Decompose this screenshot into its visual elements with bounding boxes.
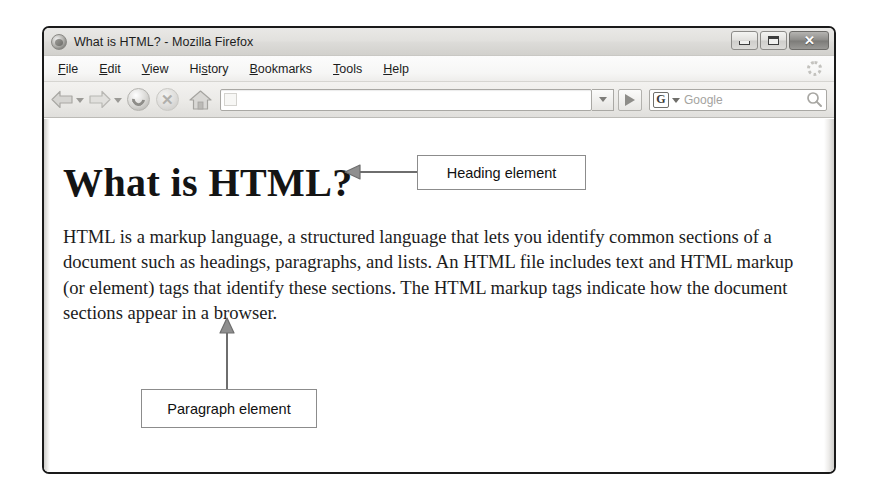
google-search-engine-icon[interactable]: G — [653, 92, 669, 108]
menu-item-file[interactable]: File — [58, 62, 78, 76]
menu-item-bookmarks[interactable]: Bookmarks — [250, 62, 313, 76]
menu-item-view[interactable]: View — [142, 62, 169, 76]
heading-callout-box: Heading element — [417, 155, 586, 190]
stop-button[interactable]: ✕ — [156, 88, 179, 111]
go-button[interactable] — [618, 89, 642, 111]
back-dropdown-chevron-down-icon[interactable] — [76, 98, 84, 103]
home-icon — [188, 89, 213, 111]
menu-item-edit[interactable]: Edit — [99, 62, 121, 76]
navigation-toolbar: ✕ G Google — [44, 82, 834, 118]
reload-button[interactable] — [127, 88, 150, 111]
loading-spinner-icon — [807, 61, 822, 76]
search-box[interactable]: G Google — [649, 89, 827, 111]
search-input[interactable]: Google — [684, 93, 802, 107]
back-button[interactable] — [51, 90, 89, 109]
window-title: What is HTML? - Mozilla Firefox — [74, 35, 253, 49]
minimize-button[interactable] — [731, 31, 758, 50]
vertical-scrollbar[interactable] — [824, 119, 834, 474]
search-engine-chevron-down-icon[interactable] — [672, 98, 680, 103]
content-left-shadow — [44, 119, 50, 474]
close-button[interactable]: ✕ — [789, 31, 829, 50]
home-button[interactable] — [188, 89, 213, 111]
stop-icon: ✕ — [161, 91, 174, 109]
firefox-globe-icon — [51, 34, 67, 50]
paragraph-callout-box: Paragraph element — [141, 389, 317, 428]
menu-item-help[interactable]: Help — [383, 62, 409, 76]
title-bar: What is HTML? - Mozilla Firefox ✕ — [44, 28, 834, 56]
maximize-button[interactable] — [760, 31, 787, 50]
minimize-icon — [739, 41, 750, 45]
menu-item-tools[interactable]: Tools — [333, 62, 362, 76]
menu-item-history[interactable]: History — [190, 62, 229, 76]
maximize-icon — [768, 36, 779, 45]
url-dropdown-button[interactable] — [592, 89, 614, 111]
back-arrow-icon — [51, 90, 73, 109]
forward-dropdown-chevron-down-icon[interactable] — [114, 98, 122, 103]
magnifier-icon[interactable] — [802, 90, 826, 110]
page-paragraph: HTML is a markup language, a structured … — [63, 224, 801, 326]
chevron-down-icon — [599, 97, 607, 102]
heading-callout-label: Heading element — [447, 165, 557, 181]
close-icon: ✕ — [804, 34, 815, 47]
page-favicon-icon — [224, 93, 237, 106]
url-input[interactable] — [220, 89, 592, 111]
paragraph-callout-label: Paragraph element — [167, 401, 290, 417]
window-controls: ✕ — [731, 31, 829, 50]
menu-bar: File Edit View History Bookmarks Tools H… — [44, 56, 834, 82]
forward-button[interactable] — [89, 90, 127, 109]
forward-arrow-icon — [89, 90, 111, 109]
page-heading: What is HTML? — [63, 159, 353, 206]
